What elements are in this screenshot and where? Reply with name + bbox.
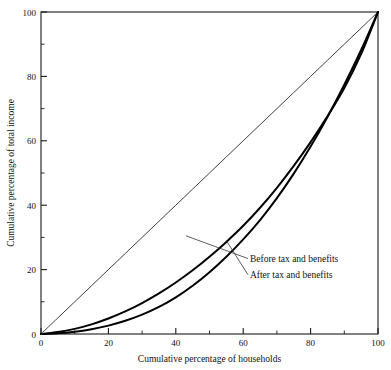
before-tax-annotation-leader-line xyxy=(186,236,248,259)
y-tick-label: 0 xyxy=(32,330,37,340)
x-tick-label: 0 xyxy=(39,338,44,348)
x-axis-tick-labels: 020406080100 xyxy=(39,338,386,348)
y-tick-label: 20 xyxy=(27,265,37,275)
y-tick-label: 60 xyxy=(27,136,37,146)
x-tick-label: 80 xyxy=(306,338,316,348)
x-axis-title: Cumulative percentage of households xyxy=(138,354,282,364)
chart-canvas: 020406080100 020406080100 Before tax and… xyxy=(0,0,391,370)
series-line-of-equality xyxy=(41,12,378,334)
x-tick-label: 60 xyxy=(239,338,249,348)
y-axis-ticks xyxy=(41,12,47,334)
y-tick-label: 40 xyxy=(27,201,37,211)
before-tax-annotation-label: Before tax and benefits xyxy=(250,254,339,264)
x-tick-label: 20 xyxy=(104,338,114,348)
data-series-group xyxy=(41,12,378,334)
lorenz-curve-figure: 020406080100 020406080100 Before tax and… xyxy=(0,0,391,370)
y-tick-label: 100 xyxy=(23,8,37,18)
y-axis-title: Cumulative percentage of total income xyxy=(6,99,16,247)
y-tick-label: 80 xyxy=(27,72,37,82)
y-axis-tick-labels: 020406080100 xyxy=(23,8,37,340)
x-tick-label: 100 xyxy=(371,338,385,348)
x-tick-label: 40 xyxy=(171,338,181,348)
after-tax-annotation-label: After tax and benefits xyxy=(250,270,333,280)
